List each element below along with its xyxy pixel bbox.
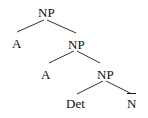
node-det: Det <box>66 97 85 110</box>
edge-np3-det <box>77 81 103 94</box>
node-np-2: NP <box>68 38 85 51</box>
overline-bar <box>127 93 136 94</box>
edge-np1-a1 <box>17 20 44 32</box>
node-np-root: NP <box>38 6 55 19</box>
node-a-2: A <box>41 68 50 81</box>
edge-np2-a2 <box>49 51 74 63</box>
edge-np3-nbar <box>106 81 130 93</box>
edge-np1-np2 <box>47 20 76 33</box>
node-np-3: NP <box>97 68 114 81</box>
node-n-bar: N <box>127 97 136 110</box>
edge-np2-np3 <box>77 51 100 63</box>
node-a-1: A <box>12 37 21 50</box>
node-n-bar-label: N <box>127 96 136 111</box>
